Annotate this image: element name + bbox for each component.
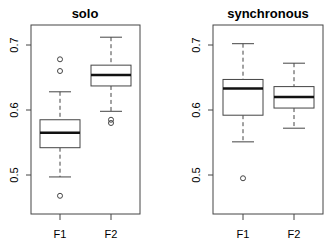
outlier-point (109, 121, 114, 126)
y-tick-label: 0.5 (8, 167, 20, 182)
plot-frame-synchronous (213, 25, 323, 214)
box-f1 (40, 57, 80, 199)
outlier-point (58, 69, 63, 74)
y-axis-solo: 0.5 0.6 0.7 (8, 37, 31, 182)
boxes-solo (40, 37, 131, 198)
panel-title-synchronous: synchronous (227, 6, 309, 21)
x-tick-label: F2 (288, 228, 301, 240)
y-tick-label: 0.5 (190, 167, 202, 182)
panel-title-solo: solo (72, 6, 99, 21)
box-f2 (274, 63, 314, 128)
box-f1 (223, 44, 263, 181)
x-tick-label: F1 (54, 228, 67, 240)
panel-synchronous: synchronous 0.5 0.6 0.7 F1 F2 (190, 6, 323, 240)
outlier-point (241, 176, 246, 181)
box-f2 (91, 37, 131, 125)
y-tick-label: 0.7 (8, 37, 20, 52)
y-tick-label: 0.6 (8, 102, 20, 117)
outlier-point (58, 193, 63, 198)
iqr-box (223, 79, 263, 115)
y-tick-label: 0.6 (190, 102, 202, 117)
panel-solo: solo 0.5 0.6 0.7 F1 F2 (8, 6, 140, 240)
boxplot-figure: solo 0.5 0.6 0.7 F1 F2 synchronous 0.5 (0, 0, 336, 250)
x-axis-solo: F1 F2 (54, 214, 118, 240)
x-tick-label: F2 (105, 228, 118, 240)
x-tick-label: F1 (237, 228, 250, 240)
y-tick-label: 0.7 (190, 37, 202, 52)
outlier-point (58, 57, 63, 62)
y-axis-synchronous: 0.5 0.6 0.7 (190, 37, 213, 182)
boxes-synchronous (223, 44, 314, 181)
x-axis-synchronous: F1 F2 (237, 214, 301, 240)
